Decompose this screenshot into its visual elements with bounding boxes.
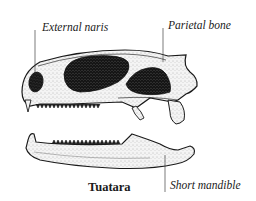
label-external-naris: External naris — [42, 22, 108, 34]
cranium — [22, 50, 197, 124]
label-parietal-bone: Parietal bone — [168, 20, 231, 32]
mandible — [26, 134, 195, 169]
figure-caption: Tuatara — [88, 181, 131, 194]
label-short-mandible: Short mandible — [170, 180, 241, 192]
